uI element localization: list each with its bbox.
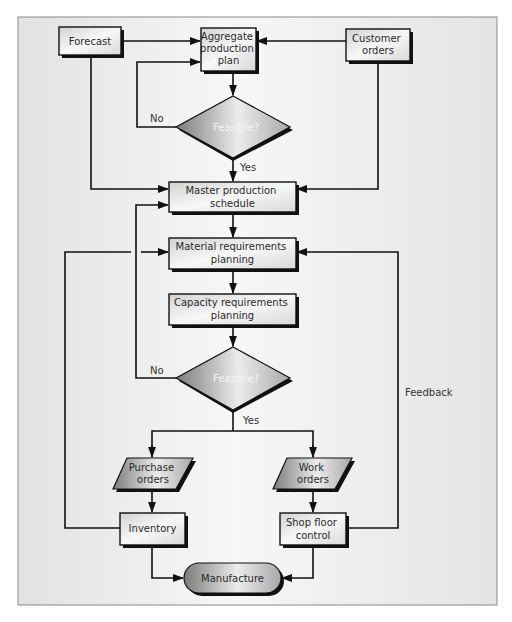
node-crp: Capacity requirements planning bbox=[169, 294, 299, 328]
label-feedback: Feedback bbox=[405, 387, 453, 398]
label-no-2: No bbox=[150, 365, 164, 376]
node-feasible-1-label: Feasible? bbox=[213, 122, 259, 133]
node-manufacture-label: Manufacture bbox=[201, 573, 264, 584]
node-manufacture: Manufacture bbox=[184, 563, 284, 596]
node-feasible-2-label: Feasible? bbox=[213, 373, 259, 384]
label-yes-2: Yes bbox=[242, 415, 259, 426]
node-aggregate-plan: Aggregate production plan bbox=[200, 28, 259, 74]
node-inventory-label: Inventory bbox=[129, 523, 177, 534]
node-shop-floor-control: Shop floor control bbox=[280, 513, 349, 548]
node-mps: Master production schedule bbox=[169, 182, 299, 215]
flowchart-svg: Forecast Aggregate production plan Custo… bbox=[0, 0, 512, 622]
node-work-orders-label: Work orders bbox=[297, 462, 329, 485]
node-inventory: Inventory bbox=[120, 513, 188, 548]
label-yes-1: Yes bbox=[239, 162, 256, 173]
node-mrp: Material requirements planning bbox=[169, 238, 299, 272]
label-no-1: No bbox=[150, 113, 164, 124]
node-customer-orders: Customer orders bbox=[346, 29, 413, 64]
node-forecast-label: Forecast bbox=[69, 36, 111, 47]
node-forecast: Forecast bbox=[59, 27, 124, 58]
flowchart-figure: Forecast Aggregate production plan Custo… bbox=[0, 0, 512, 622]
